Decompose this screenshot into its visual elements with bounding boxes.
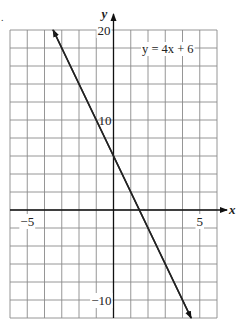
x-axis-label: x	[228, 202, 236, 217]
x-tick-label: 5	[197, 214, 204, 229]
y-tick-label: 20	[98, 23, 111, 38]
axis-labels: −552010−10xyy = 4x + 6	[19, 6, 236, 308]
x-tick-label: −5	[20, 214, 34, 229]
line-chart: −552010−10xyy = 4x + 6	[0, 0, 243, 329]
y-tick-label: −10	[91, 293, 111, 308]
y-axis-label: y	[100, 6, 108, 21]
equation-label: y = 4x + 6	[142, 42, 194, 56]
y-tick-label: 10	[99, 113, 112, 128]
